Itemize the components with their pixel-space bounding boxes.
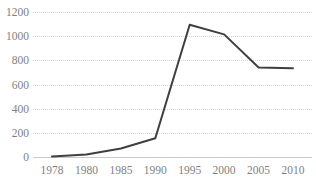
y-axis-tick-label: 1200 bbox=[6, 6, 29, 18]
x-axis-tick-label: 1980 bbox=[75, 164, 98, 176]
plot-area bbox=[33, 12, 312, 157]
y-axis: 1200 1000 800 600 400 200 0 bbox=[0, 0, 29, 185]
x-axis-tick-label: 2005 bbox=[247, 164, 270, 176]
data-series-line bbox=[33, 12, 312, 157]
y-axis-tick-label: 200 bbox=[12, 127, 29, 139]
y-axis-tick-label: 0 bbox=[23, 151, 29, 163]
x-axis-line bbox=[33, 157, 312, 158]
y-axis-tick-label: 600 bbox=[12, 79, 29, 91]
x-axis-tick-label: 1985 bbox=[109, 164, 132, 176]
y-axis-tick-label: 800 bbox=[12, 54, 29, 66]
x-axis-tick-label: 2010 bbox=[282, 164, 305, 176]
x-axis-tick-label: 1995 bbox=[178, 164, 201, 176]
line-chart: 1200 1000 800 600 400 200 0 1978 1980 19… bbox=[0, 0, 316, 185]
y-axis-tick-label: 1000 bbox=[6, 30, 29, 42]
x-axis-tick-label: 1990 bbox=[144, 164, 167, 176]
y-axis-tick-label: 400 bbox=[12, 103, 29, 115]
x-axis-tick-label: 2000 bbox=[213, 164, 236, 176]
x-axis-tick-label: 1978 bbox=[41, 164, 64, 176]
